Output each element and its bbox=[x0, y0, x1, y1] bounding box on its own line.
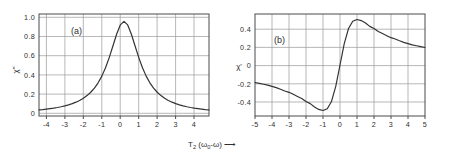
panel-b-ytick-label: -0.4 bbox=[237, 98, 251, 107]
panel-a-plot-frame bbox=[39, 14, 209, 116]
panel-a-svg: 1.0 0.8 0.6 0.4 0.2 0 -4 -3 -2 -1 0 1 2 … bbox=[0, 0, 229, 155]
panel-a: 1.0 0.8 0.6 0.4 0.2 0 -4 -3 -2 -1 0 1 2 … bbox=[0, 0, 229, 155]
panel-a-tag: (a) bbox=[71, 26, 82, 36]
panel-a-ytick-label: 0.2 bbox=[24, 90, 35, 99]
panel-b-xtick-label: 4 bbox=[406, 120, 410, 129]
panel-b-y-axis-label: χ' bbox=[236, 62, 242, 71]
panel-b-ytick-label: 0 bbox=[247, 61, 251, 70]
panel-a-ytick-label: 0.4 bbox=[24, 71, 35, 80]
panel-a-ytick-label: 0.6 bbox=[24, 51, 35, 60]
panel-b-xtick-label: 5 bbox=[423, 120, 427, 129]
panel-b-xtick-label: 2 bbox=[372, 120, 376, 129]
panel-a-data-curve bbox=[39, 21, 209, 110]
panel-a-xtick-label: -3 bbox=[61, 120, 68, 129]
panel-a-horizontal-gridlines bbox=[39, 17, 209, 113]
panel-a-y-axis-label: χ" bbox=[11, 66, 20, 73]
panel-b-xtick-labels: -5 -4 -3 -2 -1 0 1 2 3 4 5 bbox=[252, 120, 428, 129]
panel-a-xtick-label: 0 bbox=[118, 120, 122, 129]
panel-b-xtick-label: -5 bbox=[252, 120, 259, 129]
panel-b-xtick-label: -1 bbox=[320, 120, 327, 129]
panel-b-ytick-label: 0.4 bbox=[240, 25, 251, 34]
panel-a-ytick-labels: 1.0 0.8 0.6 0.4 0.2 0 bbox=[24, 13, 35, 118]
panel-a-xtick-label: 4 bbox=[192, 120, 196, 129]
panel-a-ytick-label: 0 bbox=[31, 109, 35, 118]
panel-b-xtick-label: -3 bbox=[286, 120, 293, 129]
panel-b-xtick-label: 1 bbox=[355, 120, 359, 129]
panel-b-xtick-label: -4 bbox=[269, 120, 276, 129]
panel-a-xtick-labels: -4 -3 -2 -1 0 1 2 3 4 bbox=[43, 120, 196, 129]
panel-a-xtick-label: -2 bbox=[80, 120, 87, 129]
panel-a-vertical-gridlines bbox=[46, 14, 194, 116]
panel-a-ytick-label: 0.8 bbox=[24, 32, 35, 41]
panel-a-xtick-label: -1 bbox=[98, 120, 105, 129]
panel-b-xtick-label: -2 bbox=[303, 120, 310, 129]
panel-b-xtick-label: 0 bbox=[338, 120, 342, 129]
panel-b-xtick-label: 3 bbox=[389, 120, 393, 129]
panel-a-xtick-label: 1 bbox=[137, 120, 141, 129]
panel-a-ytick-label: 1.0 bbox=[24, 13, 35, 22]
panel-b-tag: (b) bbox=[274, 35, 285, 45]
panel-b-ytick-label: -0.2 bbox=[237, 80, 251, 89]
panel-b: 0.4 0.2 0 -0.2 -0.4 -5 -4 -3 -2 -1 0 1 2… bbox=[229, 0, 458, 155]
figure-container: 1.0 0.8 0.6 0.4 0.2 0 -4 -3 -2 -1 0 1 2 … bbox=[0, 0, 458, 155]
panel-a-xtick-label: 2 bbox=[155, 120, 159, 129]
panel-b-ytick-label: 0.2 bbox=[240, 43, 251, 52]
panel-a-xtick-label: 3 bbox=[173, 120, 177, 129]
panel-a-xtick-label: -4 bbox=[43, 120, 50, 129]
panel-b-svg: 0.4 0.2 0 -0.2 -0.4 -5 -4 -3 -2 -1 0 1 2… bbox=[229, 0, 458, 155]
